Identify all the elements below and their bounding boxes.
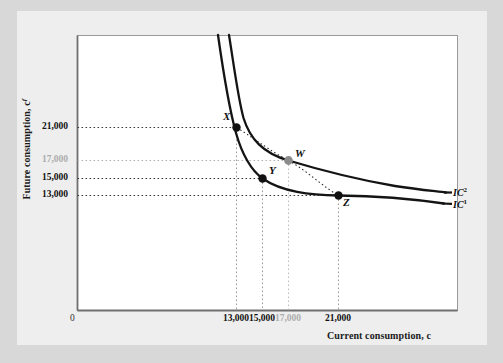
x-axis-title: Current consumption, c (327, 330, 431, 341)
curve-label-ic2: IC2 (453, 186, 467, 198)
data-point-x[interactable] (232, 123, 240, 131)
data-point-z[interactable] (334, 191, 342, 199)
point-label-x: X (223, 110, 230, 122)
point-label-y: Y (269, 164, 276, 176)
curve-label-ic1-sup: 1 (464, 198, 468, 206)
x-tick-label-17000: 17,000 (265, 313, 311, 323)
y-tick-label-21000: 21,000 (22, 121, 68, 131)
y-tick-label-13000: 13,000 (22, 189, 68, 199)
y-tick-label-15000: 15,000 (22, 172, 68, 182)
plot-stage (0, 0, 503, 363)
curve-label-ic2-sup: 2 (464, 186, 468, 194)
plot-background (78, 36, 458, 311)
origin-label: 0 (70, 313, 75, 323)
curve-label-ic1-text: IC (453, 199, 464, 210)
figure-root: Future consumption, cf Current consumpti… (0, 0, 503, 363)
point-label-w: W (295, 147, 305, 159)
curve-label-ic1: IC1 (453, 198, 467, 210)
point-label-z: Z (343, 196, 350, 208)
y-tick-label-17000: 17,000 (22, 154, 68, 164)
y-axis-title-text: Future consumption, c (21, 101, 32, 199)
x-tick-label-21000: 21,000 (315, 313, 361, 323)
data-point-w[interactable] (284, 156, 293, 165)
chart-svg (0, 0, 503, 363)
data-point-y[interactable] (258, 174, 266, 182)
y-axis-title-superscript: f (20, 99, 28, 101)
curve-label-ic2-text: IC (453, 187, 464, 198)
